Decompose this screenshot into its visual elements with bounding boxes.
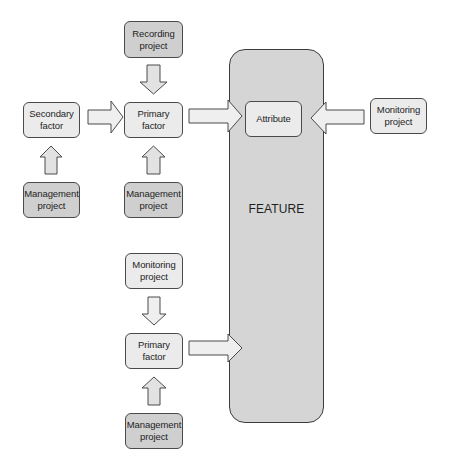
secondary-factor-node: Secondary factor	[23, 102, 80, 138]
management-project-node-bottom: Management project	[125, 413, 183, 449]
monitoring-project-node-bottom: Monitoring project	[125, 253, 183, 289]
attribute-node: Attribute	[245, 101, 302, 137]
management-project-node-left: Management project	[23, 182, 80, 218]
arrow-down-icon	[140, 65, 167, 94]
primary-factor-node-bottom: Primary factor	[125, 333, 183, 369]
arrow-right-icon	[88, 101, 123, 133]
arrow-up-icon	[142, 146, 165, 174]
feature-attribute-diagram: FEATURE Recording project Secondary fact…	[0, 0, 450, 467]
primary-factor-node-top: Primary factor	[124, 102, 183, 138]
management-project-node-mid: Management project	[124, 182, 183, 218]
arrow-up-icon	[142, 377, 166, 405]
monitoring-project-node-right: Monitoring project	[370, 98, 427, 134]
recording-project-node: Recording project	[124, 21, 183, 58]
arrows-layer	[0, 0, 450, 467]
arrow-right-icon	[189, 100, 242, 132]
arrow-right-icon	[189, 334, 242, 362]
arrow-down-icon	[142, 297, 166, 325]
arrow-up-icon	[40, 146, 62, 174]
arrow-left-icon	[311, 102, 364, 134]
